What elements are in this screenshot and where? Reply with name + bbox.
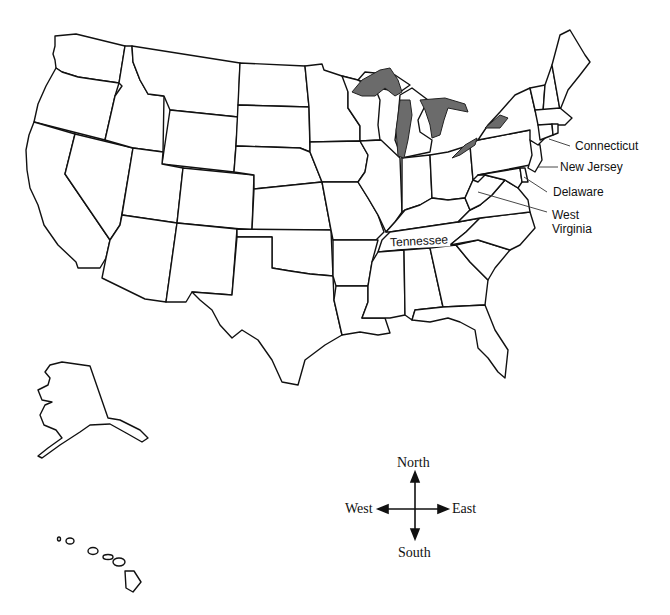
lake-huron <box>420 98 468 138</box>
state-ohio <box>430 145 473 200</box>
hawaii-island-oahu <box>88 548 98 555</box>
label-west-virginia: West Virginia <box>552 208 592 236</box>
compass-south-label: South <box>398 545 431 561</box>
connecticut-leader <box>549 139 570 146</box>
compass-east-label: East <box>452 501 476 517</box>
label-delaware: Delaware <box>553 185 604 199</box>
compass-north-label: North <box>397 455 430 471</box>
hawaii-island-kauai <box>66 538 74 544</box>
state-kansas <box>252 182 331 230</box>
hawaii-island-big <box>125 571 141 592</box>
label-connecticut: Connecticut <box>575 139 638 153</box>
state-rhode-island <box>552 124 558 135</box>
state-north-dakota <box>238 63 309 107</box>
state-maine <box>552 30 590 110</box>
us-map <box>0 0 670 615</box>
state-alaska <box>38 362 148 458</box>
state-south-dakota <box>236 105 310 152</box>
label-west-virginia-line2: Virginia <box>552 222 592 236</box>
state-colorado <box>177 168 254 230</box>
compass-rose <box>378 472 448 539</box>
hawaii-island-molokai <box>103 555 113 560</box>
state-massachusetts <box>535 108 572 125</box>
delaware-leader <box>524 177 547 192</box>
hawaii-island-niihau <box>58 537 61 541</box>
state-delaware <box>520 168 528 182</box>
hawaii-island-maui <box>113 558 125 566</box>
state-connecticut <box>538 124 553 140</box>
label-new-jersey: New Jersey <box>560 160 623 174</box>
state-florida <box>412 305 508 378</box>
state-new-mexico <box>166 223 237 302</box>
compass-west-label: West <box>345 501 373 517</box>
state-wyoming <box>162 110 238 172</box>
label-west-virginia-line1: West <box>552 208 592 222</box>
